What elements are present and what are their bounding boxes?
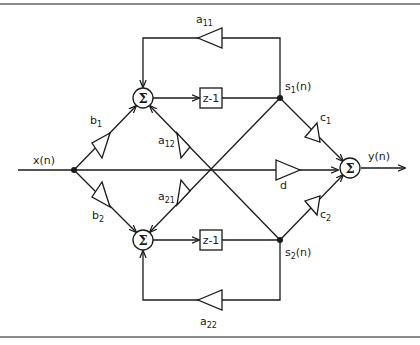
a12-label: a12 (158, 134, 175, 149)
d-label: d (280, 179, 287, 192)
delay2-box: z-1 (200, 230, 222, 250)
output-label: y(n) (368, 150, 390, 163)
delay1-box: z-1 (200, 88, 222, 108)
a22-label: a22 (200, 315, 217, 330)
a21-gain-triangle (177, 180, 190, 205)
a12-path (150, 106, 280, 240)
input-junction-dot (71, 167, 77, 173)
svg-text:z-1: z-1 (203, 234, 220, 247)
b2-label: b2 (92, 209, 104, 224)
c1-label: c1 (320, 111, 331, 126)
output-sum-node: Σ (340, 158, 360, 178)
a21-label: a21 (158, 190, 175, 205)
s2-label: s2(n) (285, 246, 311, 261)
b1-label: b1 (90, 114, 102, 129)
a22-gain-triangle (198, 290, 222, 310)
sigma-icon: Σ (138, 233, 147, 248)
a11-label: a11 (196, 13, 213, 28)
sigma-icon: Σ (345, 161, 354, 176)
a11-gain-triangle (198, 28, 222, 48)
s1-label: s1(n) (285, 80, 311, 95)
c2-label: c2 (320, 208, 331, 223)
sum2-node: Σ (133, 230, 153, 250)
signal-flow-diagram: Σ Σ Σ z-1 z-1 x(n) y(n) s1(n) s2(n) a11 … (0, 0, 420, 345)
d-gain-triangle (276, 160, 300, 180)
sum1-node: Σ (133, 88, 153, 108)
a12-gain-triangle (177, 133, 190, 158)
svg-text:z-1: z-1 (203, 92, 220, 105)
sigma-icon: Σ (138, 91, 147, 106)
s1-junction-dot (277, 95, 283, 101)
b1-gain-triangle (92, 133, 110, 158)
input-label: x(n) (33, 154, 55, 167)
b2-gain-triangle (92, 182, 110, 207)
s2-junction-dot (277, 237, 283, 243)
a21-path (150, 98, 280, 232)
